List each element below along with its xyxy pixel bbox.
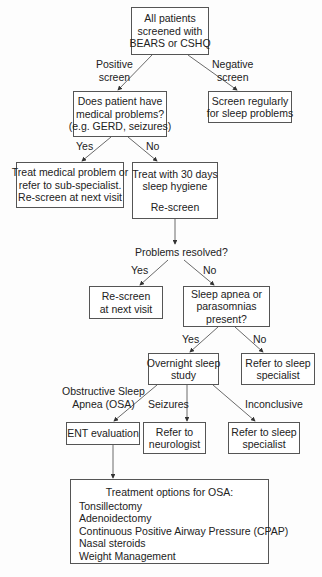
node-apnea-question: Sleep apnea or parasomnias present? bbox=[183, 286, 270, 327]
edge-label-no: No bbox=[203, 264, 216, 277]
node-neurologist: Refer to neurologist bbox=[143, 422, 206, 454]
node-start: All patients screened with BEARS or CSHQ bbox=[131, 7, 209, 55]
treatment-item: Continuous Positive Airway Pressure (CPA… bbox=[79, 525, 288, 538]
node-text: BEARS or CSHQ bbox=[129, 37, 210, 50]
treatment-title: Treatment options for OSA: bbox=[106, 486, 233, 499]
treatment-item: Adenoidectomy bbox=[79, 512, 151, 525]
node-rescreen-next-visit: Re-screen at next visit bbox=[89, 286, 163, 319]
edge-label-osa: Obstructive SleepApnea (OSA) bbox=[62, 385, 145, 410]
edge-label-positive: Positivescreen bbox=[96, 58, 133, 83]
node-overnight-study: Overnight sleep study bbox=[148, 353, 219, 385]
treatment-item: Weight Management bbox=[79, 550, 176, 563]
node-text: screened with bbox=[138, 25, 203, 38]
edge-label-seizures: Seizures bbox=[148, 398, 189, 411]
flowchart: All patients screened with BEARS or CSHQ… bbox=[0, 0, 322, 577]
edge-label-yes: Yes bbox=[182, 333, 199, 346]
edge-label-yes: Yes bbox=[131, 264, 148, 277]
node-text: All patients bbox=[144, 12, 195, 25]
node-medical-question: Does patient have medical problems? (e.g… bbox=[73, 91, 167, 137]
edge-label-inconclusive: Inconclusive bbox=[245, 398, 303, 411]
node-treat-medical: Treat medical problem or refer to sub-sp… bbox=[16, 162, 124, 208]
node-refer-specialist-2: Refer to sleep specialist bbox=[228, 422, 300, 454]
node-ent-evaluation: ENT evaluation bbox=[66, 422, 140, 445]
node-sleep-hygiene: Treat with 30 days sleep hygiene Re-scre… bbox=[132, 162, 218, 219]
edge-label-no: No bbox=[146, 140, 159, 153]
decision-problems-resolved: Problems resolved? bbox=[135, 246, 228, 259]
edge-label-no: No bbox=[253, 333, 266, 346]
edge-label-yes: Yes bbox=[76, 140, 93, 153]
node-screen-regularly: Screen regularly for sleep problems bbox=[208, 91, 292, 123]
node-treatment-options: Treatment options for OSA: Tonsillectomy… bbox=[70, 479, 269, 564]
node-refer-specialist-1: Refer to sleep specialist bbox=[241, 353, 315, 385]
treatment-item: Tonsillectomy bbox=[79, 500, 142, 513]
edge-label-negative: Negativescreen bbox=[212, 58, 253, 83]
treatment-item: Nasal steroids bbox=[79, 537, 146, 550]
